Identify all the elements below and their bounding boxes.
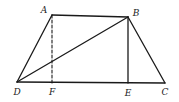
point-label-f: F — [48, 87, 56, 97]
point-label-a: A — [40, 5, 48, 15]
labels: ABCDEF — [12, 5, 168, 98]
point-label-b: B — [132, 8, 140, 18]
edges — [17, 15, 165, 83]
segment-ab — [52, 15, 128, 17]
point-label-c: C — [162, 87, 169, 97]
segment-bc — [128, 17, 165, 83]
trapezoid-diagram: ABCDEF — [0, 0, 179, 102]
segment-dc — [17, 82, 165, 83]
point-label-d: D — [12, 87, 20, 97]
point-label-e: E — [124, 88, 132, 98]
